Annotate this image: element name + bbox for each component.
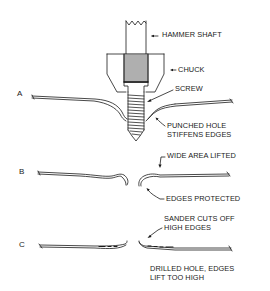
leader-arrows-a bbox=[147, 35, 176, 126]
label-punched-hole-line2: STIFFENS EDGES bbox=[167, 131, 231, 139]
panel-letter-a: A bbox=[17, 89, 22, 98]
sheet-metal-c bbox=[39, 241, 232, 251]
label-chuck: CHUCK bbox=[178, 66, 205, 74]
sheet-metal-b bbox=[38, 171, 230, 186]
label-sander-cuts-line2: HIGH EDGES bbox=[164, 224, 211, 232]
label-hammer-shaft: HAMMER SHAFT bbox=[162, 31, 222, 39]
repair-technique-diagram: A B C HAMMER SHAFT CHUCK SCREW PUNCHED H… bbox=[0, 0, 270, 291]
label-edges-protected: EDGES PROTECTED bbox=[166, 195, 240, 203]
panel-letter-b: B bbox=[19, 167, 24, 176]
label-screw: SCREW bbox=[175, 85, 203, 93]
chuck-icon bbox=[107, 54, 164, 92]
label-drilled-hole-line2: LIFT TOO HIGH bbox=[150, 274, 204, 282]
diagram-illustration bbox=[0, 0, 270, 291]
hammer-shaft-icon bbox=[126, 21, 146, 55]
label-wide-area-lifted: WIDE AREA LIFTED bbox=[167, 152, 236, 160]
sheet-metal-a bbox=[32, 95, 233, 121]
screw-icon bbox=[128, 92, 144, 141]
leader-arrows-c bbox=[148, 228, 163, 238]
panel-letter-c: C bbox=[19, 240, 25, 249]
leader-arrows-b bbox=[147, 157, 166, 199]
